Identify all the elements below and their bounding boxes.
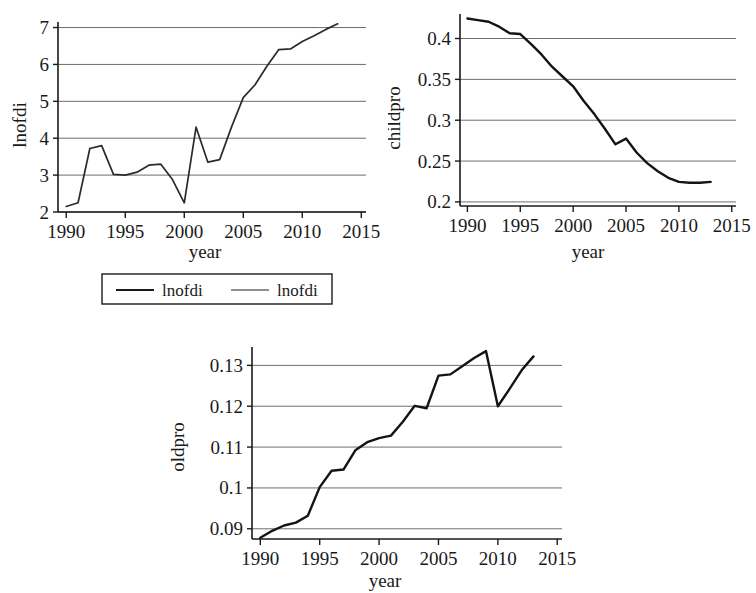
chart-panel-childpro: 0.20.250.30.350.419901995200020052010201…: [388, 0, 756, 265]
lnofdi-y-axis-title: lnofdi: [9, 102, 30, 147]
y-tick-label-0: 0.09: [210, 518, 243, 539]
x-tick-label-1: 1995: [501, 215, 539, 236]
series-line-oldpro: [260, 351, 533, 538]
childpro-tick-labels: 0.20.250.30.350.419901995200020052010201…: [418, 28, 751, 236]
figure-page: 234567199019952000200520102015 lnofdi ye…: [0, 0, 756, 593]
x-tick-label-2: 2000: [554, 215, 592, 236]
oldpro-axes: [252, 347, 562, 539]
oldpro-series: [260, 351, 533, 538]
y-tick-label-0: 2: [40, 202, 50, 223]
y-tick-label-3: 0.35: [418, 69, 451, 90]
y-tick-label-1: 3: [40, 165, 50, 186]
x-tick-label-4: 2010: [660, 215, 698, 236]
x-tick-label-3: 2005: [607, 215, 645, 236]
childpro-series: [467, 18, 710, 182]
legend-label-series-2: lnofdi: [277, 281, 318, 300]
lnofdi-series: [66, 24, 337, 207]
x-tick-label-0: 1990: [47, 221, 85, 242]
oldpro-ticks: [247, 365, 557, 545]
lnofdi-tick-labels: 234567199019952000200520102015: [40, 17, 381, 242]
y-tick-label-4: 6: [40, 54, 50, 75]
x-tick-label-0: 1990: [448, 215, 486, 236]
y-tick-label-3: 0.12: [210, 396, 243, 417]
y-tick-label-2: 4: [40, 128, 50, 149]
lnofdi-ticks: [53, 28, 361, 218]
chart-panel-lnofdi: 234567199019952000200520102015 lnofdi ye…: [0, 0, 390, 265]
childpro-y-axis-title: childpro: [388, 86, 404, 149]
lnofdi-axes: [58, 22, 366, 212]
oldpro-x-axis-title: year: [369, 570, 402, 591]
x-tick-label-3: 2005: [224, 221, 262, 242]
x-tick-label-5: 2015: [713, 215, 751, 236]
series-line-lnofdi: [66, 24, 337, 207]
childpro-axes: [460, 14, 736, 206]
y-tick-label-1: 0.25: [418, 151, 451, 172]
y-tick-label-4: 0.13: [210, 355, 243, 376]
childpro-plot: 0.20.250.30.350.419901995200020052010201…: [388, 0, 756, 265]
chart-panel-oldpro: 0.090.10.110.120.13199019952000200520102…: [170, 325, 590, 593]
lnofdi-x-axis-title: year: [189, 241, 222, 262]
legend-svg: lnofdi lnofdi: [100, 270, 350, 312]
childpro-x-axis-title: year: [572, 241, 605, 262]
y-tick-label-0: 0.2: [427, 191, 451, 212]
x-tick-label-1: 1995: [106, 221, 144, 242]
x-tick-label-3: 2005: [419, 548, 457, 569]
oldpro-tick-labels: 0.090.10.110.120.13199019952000200520102…: [210, 355, 576, 569]
x-tick-label-4: 2010: [283, 221, 321, 242]
lnofdi-plot: 234567199019952000200520102015 lnofdi ye…: [0, 0, 390, 265]
y-tick-label-1: 0.1: [219, 477, 243, 498]
series-line-childpro: [467, 18, 710, 182]
y-tick-label-2: 0.3: [427, 110, 451, 131]
oldpro-gridlines: [252, 365, 562, 528]
x-tick-label-1: 1995: [301, 548, 339, 569]
x-tick-label-2: 2000: [165, 221, 203, 242]
x-tick-label-4: 2010: [479, 548, 517, 569]
x-tick-label-5: 2015: [342, 221, 380, 242]
oldpro-plot: 0.090.10.110.120.13199019952000200520102…: [170, 325, 590, 593]
legend-lnofdi: lnofdi lnofdi: [100, 270, 350, 312]
y-tick-label-4: 0.4: [427, 28, 451, 49]
y-tick-label-2: 0.11: [210, 437, 243, 458]
x-tick-label-2: 2000: [360, 548, 398, 569]
y-tick-label-3: 5: [40, 91, 50, 112]
x-tick-label-5: 2015: [538, 548, 576, 569]
x-tick-label-0: 1990: [241, 548, 279, 569]
oldpro-y-axis-title: oldpro: [170, 422, 188, 472]
y-tick-label-5: 7: [40, 17, 50, 38]
lnofdi-gridlines: [58, 28, 366, 212]
childpro-ticks: [455, 39, 732, 212]
legend-label-series-1: lnofdi: [162, 281, 203, 300]
